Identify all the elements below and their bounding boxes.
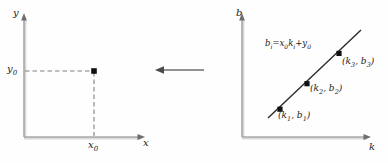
point-marker-k2b2 bbox=[304, 81, 309, 86]
line-equation-label: bi=x0ki+y0 bbox=[265, 39, 311, 50]
x-axis-label: x bbox=[143, 138, 149, 148]
kb-plane-graphic bbox=[194, 0, 388, 163]
point-marker-k3b3 bbox=[336, 51, 341, 56]
y0-tick-label: y0 bbox=[7, 64, 17, 77]
x0-tick-label: x0 bbox=[88, 140, 98, 153]
k-axis-label: k bbox=[369, 142, 375, 152]
xy-plane-panel: y x y0 x0 bbox=[0, 0, 170, 163]
b-axis-label: b bbox=[236, 8, 242, 18]
point-marker-x0y0 bbox=[91, 68, 97, 74]
arrow-head-left bbox=[155, 66, 164, 74]
y-axis-label: y bbox=[13, 8, 19, 18]
point-label-k1b1: (k1, b1) bbox=[278, 111, 310, 122]
point-label-k3b3: (k3, b3) bbox=[342, 57, 374, 68]
point-label-k2b2: (k2, b2) bbox=[310, 84, 342, 95]
kb-plane-panel bbox=[194, 0, 388, 163]
duality-figure: y x y0 x0 bbox=[0, 0, 388, 163]
k-axis-arrowhead bbox=[364, 134, 372, 140]
y-axis-arrowhead bbox=[21, 13, 27, 21]
